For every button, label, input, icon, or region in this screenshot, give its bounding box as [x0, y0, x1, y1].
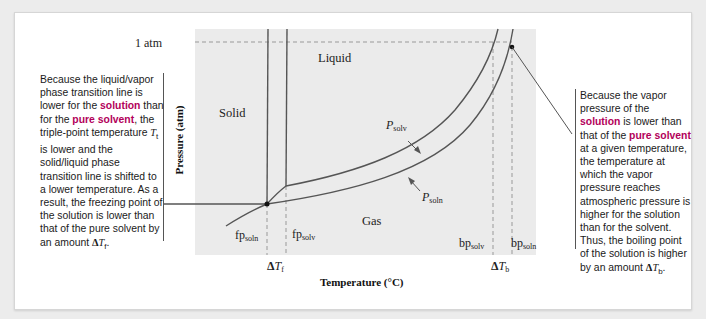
fp-solv-label: fpsolv — [292, 227, 315, 242]
delta-tb-label: ΔTb — [491, 259, 509, 274]
region-liquid: Liquid — [318, 51, 351, 66]
psoln-label: Psoln — [422, 190, 443, 205]
left-explanation-note: Because the liquid/vapor phase transitio… — [40, 73, 164, 253]
solution-solid-liquid-line — [267, 29, 268, 204]
region-solid: Solid — [219, 106, 245, 121]
bp-solv-label: bpsolv — [459, 236, 484, 251]
delta-tf-label: ΔTf — [267, 259, 284, 274]
psolv-label: Psolv — [386, 118, 407, 133]
bp-soln-label: bpsoln — [511, 236, 536, 251]
right-explanation-note: Because the vapor pressure of the soluti… — [580, 89, 692, 278]
solution-vapor-curve — [267, 29, 513, 204]
x-axis-label: Temperature (°C) — [320, 276, 404, 288]
sublimation-curve — [226, 204, 267, 226]
region-gas: Gas — [362, 214, 381, 229]
boiling-point-leader — [512, 47, 572, 134]
y-axis-label: Pressure (atm) — [173, 106, 185, 175]
fp-soln-label: fpsoln — [235, 228, 258, 243]
right-note-rule — [575, 89, 576, 249]
y-tick-1atm: 1 atm — [135, 36, 162, 51]
solvent-solid-liquid-line — [286, 29, 287, 186]
triple-point-marker — [265, 202, 270, 207]
